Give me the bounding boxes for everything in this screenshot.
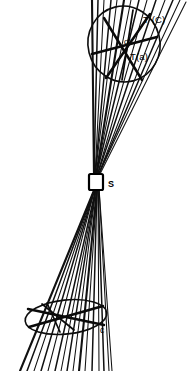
ray-diagram-svg: T (C) T(a) d' S c xyxy=(0,0,188,371)
upper-ray-fan xyxy=(92,0,186,176)
label-lower-ellipse: c xyxy=(100,325,105,335)
upper-ray xyxy=(99,2,186,176)
label-upper-ellipse-inner: T(a) xyxy=(130,51,148,62)
label-diameter-marker: d' xyxy=(124,37,130,46)
lower-ray xyxy=(34,188,95,371)
label-slit: S xyxy=(108,179,114,189)
slit-aperture[interactable] xyxy=(89,174,103,190)
lower-ray-fan xyxy=(20,188,112,371)
slit-rectangle[interactable] xyxy=(89,174,103,190)
lower-ray xyxy=(20,188,95,371)
figure-canvas: T (C) T(a) d' S c xyxy=(0,0,188,371)
label-upper-ellipse-outer: T (C) xyxy=(143,14,165,25)
